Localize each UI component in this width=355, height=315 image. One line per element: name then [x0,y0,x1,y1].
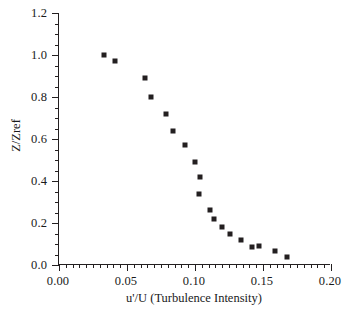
x-axis-title: u'/U (Turbulence Intensity) [58,291,330,306]
x-minor-tick [202,264,203,268]
data-point [198,174,203,179]
y-minor-tick [55,108,59,109]
x-minor-tick [100,264,101,268]
y-minor-tick [55,244,59,245]
x-minor-tick [141,264,142,268]
x-minor-tick [297,264,298,268]
x-minor-tick [317,264,318,268]
y-minor-tick [55,213,59,214]
y-tick-label: 0.8 [0,90,47,104]
x-minor-tick [79,264,80,268]
y-major-tick [52,97,59,98]
x-minor-tick [209,264,210,268]
x-minor-tick [66,264,67,268]
x-major-tick [59,264,60,271]
y-major-tick [52,181,59,182]
y-minor-tick [55,255,59,256]
x-minor-tick [113,264,114,268]
x-minor-tick [134,264,135,268]
y-minor-tick [55,66,59,67]
data-point [142,76,147,81]
y-minor-tick [55,34,59,35]
x-minor-tick [249,264,250,268]
y-minor-tick [55,118,59,119]
y-major-tick [52,265,59,266]
x-tick-label: 0.05 [115,274,137,288]
data-point [273,249,278,254]
y-axis-end-cap [52,13,59,14]
x-minor-tick [290,264,291,268]
data-points-layer [59,13,330,264]
y-minor-tick [55,192,59,193]
x-minor-tick [256,264,257,268]
x-minor-tick [311,264,312,268]
y-tick-label: 0.0 [0,258,47,272]
y-minor-tick [55,87,59,88]
x-minor-tick [283,264,284,268]
y-minor-tick [55,45,59,46]
x-minor-tick [236,264,237,268]
x-minor-tick [215,264,216,268]
y-tick-label: 0.6 [0,132,47,146]
y-major-tick [52,223,59,224]
y-tick-label: 0.4 [0,174,47,188]
y-axis-title: Z/Zref [9,96,24,176]
x-minor-tick [181,264,182,268]
x-minor-tick [243,264,244,268]
x-minor-tick [120,264,121,268]
y-tick-label: 1.2 [0,6,47,20]
data-point [193,160,198,165]
x-minor-tick [175,264,176,268]
y-minor-tick [55,76,59,77]
x-axis-end-cap [331,264,332,271]
y-major-tick [52,55,59,56]
scatter-plot-figure: 0.000.050.100.150.20 0.00.20.40.60.81.01… [0,0,355,315]
y-minor-tick [55,202,59,203]
y-tick-label: 0.2 [0,216,47,230]
y-minor-tick [55,234,59,235]
x-minor-tick [161,264,162,268]
x-minor-tick [229,264,230,268]
y-minor-tick [55,150,59,151]
y-major-tick [52,139,59,140]
x-tick-label: 0.00 [47,274,69,288]
data-point [239,237,244,242]
x-minor-tick [73,264,74,268]
y-minor-tick [55,129,59,130]
x-minor-tick [222,264,223,268]
data-point [112,59,117,64]
x-minor-tick [304,264,305,268]
x-minor-tick [168,264,169,268]
x-tick-label: 0.15 [251,274,273,288]
data-point [228,231,233,236]
x-minor-tick [107,264,108,268]
plot-area [58,13,330,265]
x-major-tick [195,264,196,271]
x-tick-label: 0.10 [183,274,205,288]
data-point [285,254,290,259]
data-point [212,216,217,221]
y-minor-tick [55,160,59,161]
data-point [256,244,261,249]
x-minor-tick [277,264,278,268]
data-point [171,128,176,133]
x-minor-tick [270,264,271,268]
x-major-tick [127,264,128,271]
x-minor-tick [188,264,189,268]
data-point [220,225,225,230]
y-minor-tick [55,171,59,172]
data-point [197,191,202,196]
y-minor-tick [55,24,59,25]
data-point [250,245,255,250]
x-minor-tick [154,264,155,268]
data-point [101,53,106,58]
data-point [207,208,212,213]
data-point [183,143,188,148]
x-minor-tick [93,264,94,268]
x-minor-tick [324,264,325,268]
x-tick-label: 0.20 [319,274,341,288]
x-major-tick [263,264,264,271]
x-minor-tick [86,264,87,268]
x-minor-tick [147,264,148,268]
data-point [164,111,169,116]
